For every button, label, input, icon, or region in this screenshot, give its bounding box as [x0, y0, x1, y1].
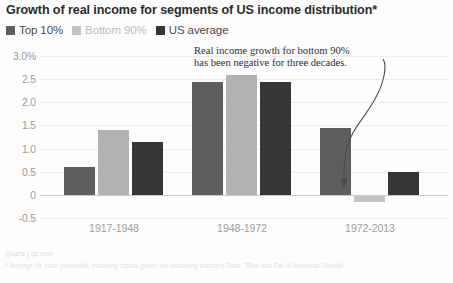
bar-us-average[interactable]: [132, 142, 163, 195]
legend-item-top-10[interactable]: Top 10%: [6, 24, 63, 36]
bar-us-average[interactable]: [388, 172, 419, 195]
x-axis-labels: 1917-1948 1948-1972 1972-2013: [40, 222, 448, 238]
bar-top-10[interactable]: [320, 128, 351, 195]
legend-item-us-average[interactable]: US average: [156, 24, 229, 36]
y-axis-labels: 3.0% 2.5 2.0 1.5 1.0 0.5 0 -0.5: [0, 56, 36, 218]
chart-annotation: Real income growth for bottom 90% has be…: [194, 45, 350, 68]
bar-bottom-90[interactable]: [354, 195, 385, 202]
bar-bottom-90[interactable]: [226, 75, 257, 195]
annotation-line-2: has been negative for three decades.: [194, 57, 350, 69]
annotation-line-1: Real income growth for bottom 90%: [194, 45, 350, 57]
y-tick-label: 1.5: [2, 120, 36, 131]
plot-area: [40, 56, 448, 218]
legend-swatch-us-average: [156, 26, 165, 35]
bar-top-10[interactable]: [192, 82, 223, 195]
y-tick-label: 2.5: [2, 74, 36, 85]
source-attribution: Quartz | qz.com: [5, 250, 53, 257]
legend-label-top-10: Top 10%: [19, 24, 63, 36]
x-tick-label-1917-1948: 1917-1948: [62, 222, 166, 234]
y-tick-label: 2.0: [2, 97, 36, 108]
legend-swatch-bottom-90: [72, 26, 81, 35]
y-tick-label: 0.5: [2, 166, 36, 177]
bar-group-1948-1972: [190, 56, 294, 218]
gridline-neg-0-5: [40, 218, 448, 219]
bar-group-1972-2013: [318, 56, 422, 218]
bar-top-10[interactable]: [64, 167, 95, 195]
y-tick-label: 0: [2, 189, 36, 200]
chart-container: Growth of real income for segments of US…: [0, 0, 453, 283]
chart-footnote: * Average for each percentile, including…: [5, 262, 345, 269]
bar-group-1917-1948: [62, 56, 166, 218]
x-tick-label-1972-2013: 1972-2013: [318, 222, 422, 234]
bar-groups: [40, 56, 448, 218]
bar-us-average[interactable]: [260, 82, 291, 195]
legend-label-bottom-90: Bottom 90%: [85, 24, 147, 36]
legend-swatch-top-10: [6, 26, 15, 35]
x-tick-label-1948-1972: 1948-1972: [190, 222, 294, 234]
y-tick-label: -0.5: [2, 213, 36, 224]
legend-label-us-average: US average: [169, 24, 229, 36]
y-tick-label: 1.0: [2, 143, 36, 154]
chart-title: Growth of real income for segments of US…: [6, 3, 377, 17]
y-tick-label: 3.0%: [2, 51, 36, 62]
legend-item-bottom-90[interactable]: Bottom 90%: [72, 24, 147, 36]
gridline-zero: [40, 195, 448, 196]
bar-bottom-90[interactable]: [98, 130, 129, 195]
chart-legend: Top 10% Bottom 90% US average: [6, 24, 228, 36]
